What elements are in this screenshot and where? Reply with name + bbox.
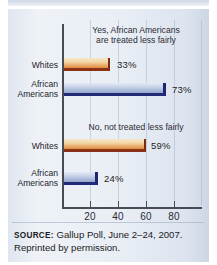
group-heading-yes: Yes, African Americans are treated less … bbox=[66, 25, 206, 45]
value-label-african-americans-no: 24% bbox=[104, 173, 124, 184]
category-label-line1: Whites bbox=[8, 142, 58, 152]
x-tick-40 bbox=[118, 201, 119, 208]
source-label: Source: bbox=[14, 231, 54, 240]
category-label-line1: Whites bbox=[8, 61, 58, 71]
group-heading-no-line1: No, not treated less fairly bbox=[66, 122, 206, 132]
category-label-line2: Americans bbox=[8, 90, 58, 100]
bar-chart: Yes, African Americans are treated less … bbox=[8, 12, 209, 217]
bar-whites-no-body bbox=[64, 139, 146, 152]
value-label-whites-yes: 33% bbox=[117, 59, 137, 70]
y-axis-line bbox=[62, 24, 64, 209]
gridline-edge bbox=[201, 20, 202, 205]
group-heading-yes-line1: Yes, African Americans bbox=[66, 25, 206, 35]
top-decorative-band bbox=[8, 0, 209, 6]
x-tick-label-80: 80 bbox=[162, 211, 186, 222]
category-label-whites-yes: Whites bbox=[8, 61, 58, 71]
bar-african-americans-yes-body bbox=[64, 83, 166, 96]
bar-african-americans-no[interactable] bbox=[64, 172, 98, 185]
bar-whites-yes-body bbox=[64, 58, 110, 71]
value-label-whites-no: 59% bbox=[151, 140, 171, 151]
gridline-60 bbox=[146, 20, 147, 205]
bar-african-americans-no-body bbox=[64, 172, 98, 185]
source-divider bbox=[12, 222, 204, 223]
figure-container: Yes, African Americans are treated less … bbox=[0, 0, 217, 265]
category-label-line2: Americans bbox=[8, 179, 58, 189]
source-note: Source: Gallup Poll, June 2–24, 2007. Re… bbox=[14, 229, 199, 255]
category-label-whites-no: Whites bbox=[8, 142, 58, 152]
group-heading-yes-line2: are treated less fairly bbox=[66, 35, 206, 45]
x-tick-label-60: 60 bbox=[134, 211, 158, 222]
bar-whites-yes[interactable] bbox=[64, 58, 110, 71]
bar-whites-no[interactable] bbox=[64, 139, 146, 152]
category-label-african-americans-no: African Americans bbox=[8, 169, 58, 188]
x-axis-line bbox=[62, 207, 202, 209]
x-tick-20 bbox=[90, 201, 91, 208]
gridline-80 bbox=[174, 20, 175, 205]
x-tick-label-20: 20 bbox=[78, 211, 102, 222]
value-label-african-americans-yes: 73% bbox=[172, 84, 192, 95]
x-tick-80 bbox=[174, 201, 175, 208]
category-label-african-americans-yes: African Americans bbox=[8, 80, 58, 99]
x-tick-label-40: 40 bbox=[106, 211, 130, 222]
bar-african-americans-yes[interactable] bbox=[64, 83, 166, 96]
group-heading-no: No, not treated less fairly bbox=[66, 122, 206, 132]
x-tick-60 bbox=[146, 201, 147, 208]
